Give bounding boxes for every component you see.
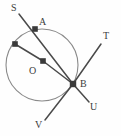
- chord-segment-PO: [15, 44, 43, 61]
- label-b: B: [80, 79, 87, 89]
- label-u: U: [90, 102, 97, 112]
- label-s: S: [11, 3, 17, 13]
- point-marker-b: [70, 81, 76, 87]
- point-marker-o: [40, 58, 46, 64]
- point-marker-p: [12, 41, 18, 47]
- ray-BV: [45, 84, 73, 120]
- label-o: O: [29, 66, 36, 76]
- geometry-figure: S A O B T U V: [0, 0, 121, 136]
- circle-outline: [6, 29, 78, 101]
- label-v: V: [35, 120, 42, 130]
- ray-BT: [73, 44, 101, 84]
- label-a: A: [39, 17, 46, 27]
- geometry-canvas: [0, 0, 121, 136]
- label-t: T: [103, 31, 109, 41]
- point-marker-a: [32, 26, 38, 32]
